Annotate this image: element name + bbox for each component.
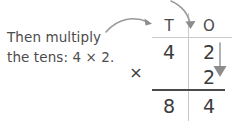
worksheet-illustration: Then multiply the tens: 4 × 2. × T O 4 2… <box>0 0 237 121</box>
multiplier-ones-digit: 2 <box>192 66 226 88</box>
multiplicand-tens-digit: 4 <box>152 41 186 63</box>
multiplication-operator: × <box>128 64 144 82</box>
multiplicand-ones-digit: 2 <box>192 41 226 63</box>
header-ones: O <box>192 15 226 37</box>
place-value-chart: T O 4 2 2 8 4 <box>152 13 232 121</box>
caption-line-2: the tens: 4 × 2. <box>7 47 127 67</box>
product-ones-digit: 4 <box>192 95 226 117</box>
instruction-caption: Then multiply the tens: 4 × 2. <box>7 27 127 67</box>
header-rule <box>152 37 232 38</box>
header-tens: T <box>152 15 186 37</box>
column-divider <box>188 13 189 121</box>
product-tens-digit: 8 <box>152 95 186 117</box>
answer-rule <box>152 89 225 91</box>
caption-line-1: Then multiply <box>7 27 127 47</box>
